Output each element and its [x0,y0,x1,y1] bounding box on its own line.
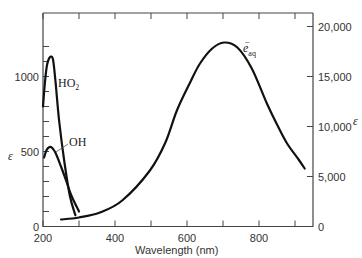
y-axis-label-right: ε [353,114,358,128]
y-left-tick-label: 1000 [15,71,39,83]
y-right-tick-label: 15,000 [318,71,352,83]
series-e-aq-line [61,42,305,219]
y-left-tick-label: 500 [21,146,39,158]
axis-tick-labels: 2004006008000500100005,00010,00015,00020… [15,21,352,245]
x-tick-label: 600 [178,232,196,244]
x-tick-label: 800 [250,232,268,244]
y-axis-label-left: ε [8,149,13,163]
ho2-label: HO2 [58,76,79,92]
axis-ticks [43,13,313,227]
y-left-tick-label: 0 [33,221,39,233]
absorption-spectrum-chart: 2004006008000500100005,00010,00015,00020… [0,0,362,258]
x-axis-label: Wavelength (nm) [135,244,218,256]
x-tick-label: 200 [34,232,52,244]
y-right-tick-label: 0 [318,221,324,233]
y-right-tick-label: 5,000 [318,171,346,183]
data-series [43,42,305,219]
plot-frame [43,13,313,227]
y-right-tick-label: 10,000 [318,121,352,133]
x-tick-label: 400 [106,232,124,244]
series-oh-line [44,147,79,212]
eaq-label: eaq− [243,37,256,58]
y-right-tick-label: 20,000 [318,21,352,33]
oh-label: OH [69,135,87,149]
